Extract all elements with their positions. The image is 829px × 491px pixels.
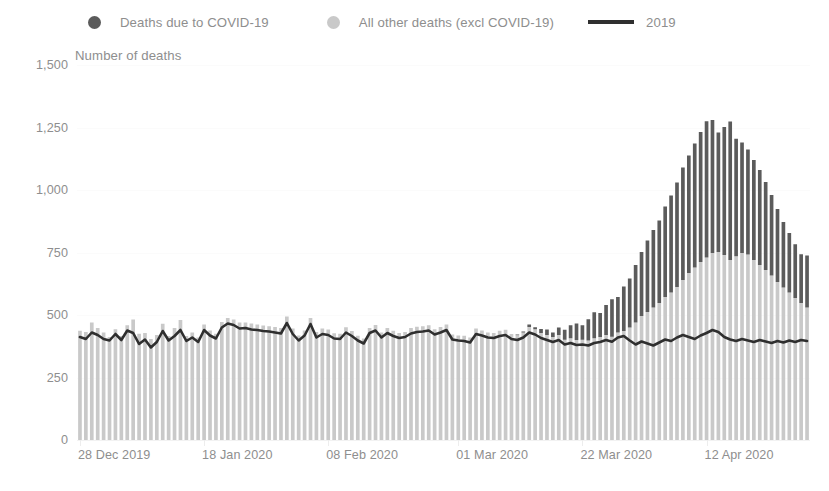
bar-segment-other-deaths[interactable] xyxy=(403,332,407,440)
bar-segment-other-deaths[interactable] xyxy=(273,327,277,440)
bar-segment-covid-deaths[interactable] xyxy=(740,143,744,254)
bar-segment-other-deaths[interactable] xyxy=(468,338,472,441)
bar-segment-other-deaths[interactable] xyxy=(84,332,88,440)
bar-segment-covid-deaths[interactable] xyxy=(693,144,697,268)
bar-segment-covid-deaths[interactable] xyxy=(521,332,525,333)
legend-item-other-deaths[interactable]: All other deaths (excl COVID-19) xyxy=(327,8,554,36)
bar-segment-other-deaths[interactable] xyxy=(267,326,271,440)
bar-segment-covid-deaths[interactable] xyxy=(746,150,750,255)
bar-segment-other-deaths[interactable] xyxy=(717,252,721,440)
bar-segment-other-deaths[interactable] xyxy=(368,328,372,440)
bar-segment-covid-deaths[interactable] xyxy=(581,325,585,340)
bar-segment-covid-deaths[interactable] xyxy=(728,122,732,261)
bar-segment-other-deaths[interactable] xyxy=(527,327,531,440)
bar-segment-other-deaths[interactable] xyxy=(279,328,283,440)
bar-segment-covid-deaths[interactable] xyxy=(586,319,590,340)
bar-segment-covid-deaths[interactable] xyxy=(616,297,620,333)
bar-segment-other-deaths[interactable] xyxy=(332,333,336,440)
bar-segment-other-deaths[interactable] xyxy=(208,331,212,441)
bar-segment-other-deaths[interactable] xyxy=(539,333,543,440)
bar-segment-covid-deaths[interactable] xyxy=(539,329,543,333)
bar-segment-other-deaths[interactable] xyxy=(504,330,508,440)
bar-segment-other-deaths[interactable] xyxy=(433,329,437,440)
bar-segment-other-deaths[interactable] xyxy=(108,337,112,440)
bar-segment-other-deaths[interactable] xyxy=(338,334,342,440)
bar-segment-other-deaths[interactable] xyxy=(456,336,460,441)
bar-segment-other-deaths[interactable] xyxy=(185,336,189,440)
bar-segment-other-deaths[interactable] xyxy=(214,334,218,440)
bar-segment-other-deaths[interactable] xyxy=(415,327,419,440)
bar-segment-other-deaths[interactable] xyxy=(451,335,455,441)
bar-segment-other-deaths[interactable] xyxy=(581,340,585,440)
bar-segment-other-deaths[interactable] xyxy=(386,328,390,440)
bar-segment-covid-deaths[interactable] xyxy=(533,327,537,329)
bar-segment-covid-deaths[interactable] xyxy=(787,233,791,293)
bar-segment-other-deaths[interactable] xyxy=(752,260,756,440)
bar-segment-covid-deaths[interactable] xyxy=(545,330,549,336)
bar-segment-other-deaths[interactable] xyxy=(533,329,537,440)
bar-segment-other-deaths[interactable] xyxy=(462,336,466,440)
bar-segment-other-deaths[interactable] xyxy=(805,308,809,441)
bar-segment-covid-deaths[interactable] xyxy=(563,330,567,340)
bar-segment-covid-deaths[interactable] xyxy=(717,133,721,253)
bar-segment-other-deaths[interactable] xyxy=(202,325,206,441)
bar-segment-other-deaths[interactable] xyxy=(486,333,490,441)
bar-segment-covid-deaths[interactable] xyxy=(610,299,614,337)
bar-segment-other-deaths[interactable] xyxy=(196,338,200,441)
bar-segment-other-deaths[interactable] xyxy=(161,324,165,440)
bar-segment-other-deaths[interactable] xyxy=(598,337,602,440)
bar-segment-other-deaths[interactable] xyxy=(226,318,230,440)
bar-segment-other-deaths[interactable] xyxy=(628,328,632,441)
bar-segment-covid-deaths[interactable] xyxy=(527,325,531,328)
bar-segment-other-deaths[interactable] xyxy=(427,325,431,440)
bar-segment-other-deaths[interactable] xyxy=(516,335,520,440)
bar-segment-other-deaths[interactable] xyxy=(255,325,259,441)
bar-segment-other-deaths[interactable] xyxy=(634,323,638,441)
bar-segment-other-deaths[interactable] xyxy=(640,316,644,440)
bar-segment-other-deaths[interactable] xyxy=(746,255,750,441)
bar-segment-other-deaths[interactable] xyxy=(190,333,194,441)
bar-segment-other-deaths[interactable] xyxy=(675,287,679,440)
bar-segment-covid-deaths[interactable] xyxy=(805,256,809,308)
bar-segment-other-deaths[interactable] xyxy=(652,308,656,441)
bar-segment-other-deaths[interactable] xyxy=(521,333,525,441)
bar-segment-other-deaths[interactable] xyxy=(309,318,313,440)
bar-segment-other-deaths[interactable] xyxy=(78,331,82,440)
bar-segment-other-deaths[interactable] xyxy=(569,338,573,440)
bar-segment-other-deaths[interactable] xyxy=(220,322,224,440)
bar-segment-other-deaths[interactable] xyxy=(474,329,478,441)
bar-segment-covid-deaths[interactable] xyxy=(646,241,650,313)
bar-segment-other-deaths[interactable] xyxy=(793,298,797,440)
bar-segment-other-deaths[interactable] xyxy=(734,256,738,440)
bar-segment-other-deaths[interactable] xyxy=(616,333,620,441)
bar-segment-other-deaths[interactable] xyxy=(663,297,667,440)
bar-segment-other-deaths[interactable] xyxy=(722,255,726,440)
bar-segment-covid-deaths[interactable] xyxy=(592,312,596,338)
bar-segment-other-deaths[interactable] xyxy=(344,327,348,440)
bar-segment-other-deaths[interactable] xyxy=(421,326,425,440)
bar-segment-other-deaths[interactable] xyxy=(297,336,301,441)
bar-segment-other-deaths[interactable] xyxy=(758,265,762,440)
bar-segment-other-deaths[interactable] xyxy=(326,330,330,441)
bar-segment-other-deaths[interactable] xyxy=(409,328,413,440)
bar-segment-other-deaths[interactable] xyxy=(787,293,791,441)
bar-segment-covid-deaths[interactable] xyxy=(598,313,602,337)
bar-segment-covid-deaths[interactable] xyxy=(551,333,555,338)
bar-segment-other-deaths[interactable] xyxy=(90,323,94,441)
bar-segment-covid-deaths[interactable] xyxy=(634,265,638,323)
bar-segment-other-deaths[interactable] xyxy=(551,337,555,440)
bar-segment-other-deaths[interactable] xyxy=(510,334,514,440)
bar-segment-other-deaths[interactable] xyxy=(705,258,709,441)
bar-segment-covid-deaths[interactable] xyxy=(640,252,644,316)
bar-segment-covid-deaths[interactable] xyxy=(604,305,608,335)
bar-segment-covid-deaths[interactable] xyxy=(569,325,573,338)
bar-segment-other-deaths[interactable] xyxy=(770,276,774,441)
bar-segment-other-deaths[interactable] xyxy=(173,328,177,440)
bar-segment-covid-deaths[interactable] xyxy=(575,324,579,341)
bar-segment-other-deaths[interactable] xyxy=(143,333,147,440)
bar-segment-covid-deaths[interactable] xyxy=(657,221,661,304)
bar-segment-other-deaths[interactable] xyxy=(291,329,295,441)
bar-segment-other-deaths[interactable] xyxy=(391,331,395,440)
bar-segment-other-deaths[interactable] xyxy=(681,280,685,440)
bar-segment-other-deaths[interactable] xyxy=(285,317,289,441)
